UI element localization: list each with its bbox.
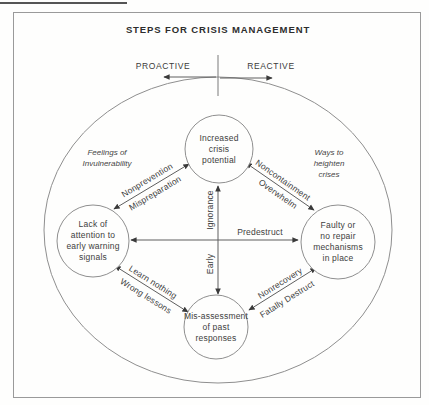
edge-label-early: Early [205, 254, 215, 274]
proactive-label: PROACTIVE [136, 61, 191, 71]
crisis-management-figure: STEPS FOR CRISIS MANAGEMENT PROACTIVE RE… [0, 0, 429, 405]
edge-label-predestruct: Predestruct [237, 227, 283, 237]
side-note-heighten-crises: Ways to heighten crises [314, 147, 345, 180]
node-lack-of-attention-label: Lack of attention to early warning signa… [66, 219, 119, 263]
side-note-invulnerability: Feelings of Invulnerability [83, 147, 132, 169]
reactive-label: REACTIVE [247, 61, 294, 71]
edge-label-ignorance: Ignorance [205, 190, 215, 230]
figure-title: STEPS FOR CRISIS MANAGEMENT [126, 24, 310, 35]
node-increased-crisis-label: Increased crisis potential [199, 133, 238, 166]
node-faulty-repair-label: Faulty or no repair mechanisms in place [313, 220, 363, 264]
edge-noncontainment-arrow [246, 163, 314, 210]
node-misassessment-label: Mis-assessment of past responses [184, 311, 248, 344]
